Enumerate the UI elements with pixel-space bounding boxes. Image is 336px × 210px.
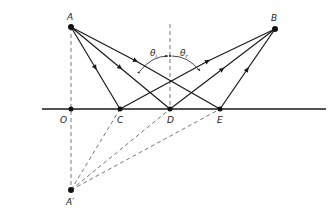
label-d: D — [167, 115, 174, 125]
image-ray-e — [71, 109, 220, 190]
incident-angle-arc — [140, 56, 168, 71]
label-o: O — [60, 115, 67, 125]
incident-ray-ad — [71, 27, 170, 109]
point-a — [68, 24, 74, 30]
image-ray-c — [71, 109, 120, 190]
point-b — [272, 26, 278, 32]
point-c — [118, 107, 123, 112]
reflected-ray-db — [170, 29, 275, 109]
point-o — [69, 107, 74, 112]
reflection-diagram: A B O C D E A′ θi θr — [0, 0, 336, 210]
label-e: E — [217, 115, 223, 125]
label-b: B — [271, 13, 277, 23]
point-d — [168, 107, 173, 112]
reflected-ray-cb — [120, 29, 275, 109]
point-e — [218, 107, 223, 112]
label-theta-r: θr — [180, 48, 189, 59]
point-a-prime — [68, 187, 74, 193]
label-a-prime: A′ — [65, 197, 74, 207]
reflected-ray-eb — [220, 29, 275, 109]
label-theta-i: θi — [150, 48, 158, 59]
label-a: A — [66, 12, 73, 22]
label-c: C — [117, 115, 124, 125]
